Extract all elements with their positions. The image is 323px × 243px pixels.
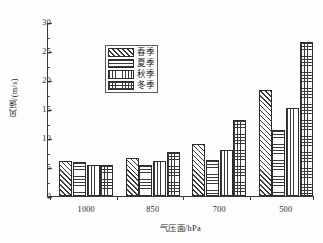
- bar-冬季-700: [233, 120, 246, 196]
- bar-chart-figure: 风速/(m/s) 051015202530 1000850700500 气压面/…: [0, 0, 323, 243]
- legend-item-spring: 春季: [108, 47, 155, 58]
- legend-label-summer: 夏季: [137, 59, 155, 68]
- y-minor-tick-mark: [48, 96, 50, 97]
- y-tick-mark: [48, 110, 52, 111]
- bar-冬季-1000: [100, 165, 113, 196]
- x-tick-label: 700: [213, 205, 226, 214]
- legend-swatch-summer-icon: [108, 59, 134, 68]
- bar-夏季-1000: [73, 162, 86, 196]
- y-tick-mark: [48, 168, 52, 169]
- legend-label-spring: 春季: [137, 48, 155, 57]
- y-minor-tick-mark: [48, 154, 50, 155]
- bar-秋季-850: [153, 161, 166, 196]
- bar-春季-500: [259, 90, 272, 196]
- bar-夏季-700: [206, 160, 219, 196]
- bar-春季-850: [126, 158, 139, 196]
- bar-春季-1000: [59, 161, 72, 196]
- legend-swatch-autumn-icon: [108, 70, 134, 79]
- y-tick-mark: [48, 81, 52, 82]
- x-tick-mark: [183, 196, 184, 200]
- bar-夏季-850: [139, 165, 152, 196]
- legend-item-winter: 冬季: [108, 80, 155, 91]
- bar-夏季-500: [272, 130, 285, 196]
- x-tick-label: 1000: [78, 205, 95, 214]
- x-tick-mark: [50, 196, 51, 200]
- legend-item-summer: 夏季: [108, 58, 155, 69]
- y-minor-tick-mark: [48, 183, 50, 184]
- x-tick-mark: [313, 196, 314, 200]
- legend-label-winter: 冬季: [137, 81, 155, 90]
- legend-label-autumn: 秋季: [137, 70, 155, 79]
- chart-legend: 春季 夏季 秋季 冬季: [105, 45, 158, 93]
- y-minor-tick-mark: [48, 125, 50, 126]
- y-axis-title: 风速/(m/s): [9, 78, 21, 117]
- legend-swatch-spring-icon: [108, 48, 134, 57]
- bar-春季-700: [192, 144, 205, 196]
- bar-冬季-500: [300, 42, 313, 196]
- y-tick-mark: [48, 23, 52, 24]
- y-tick-mark: [48, 52, 52, 53]
- legend-item-autumn: 秋季: [108, 69, 155, 80]
- x-tick-label: 500: [279, 205, 292, 214]
- x-tick-mark: [250, 196, 251, 200]
- bar-冬季-850: [167, 152, 180, 196]
- x-tick-mark: [117, 196, 118, 200]
- bar-秋季-1000: [87, 165, 100, 196]
- bar-秋季-500: [286, 108, 299, 196]
- legend-swatch-winter-icon: [108, 81, 134, 90]
- y-minor-tick-mark: [48, 38, 50, 39]
- bar-秋季-700: [220, 150, 233, 196]
- y-minor-tick-mark: [48, 67, 50, 68]
- plot-area: 051015202530 1000850700500 气压面/hPa 春季 夏季…: [47, 23, 313, 197]
- x-tick-label: 850: [146, 205, 159, 214]
- y-tick-mark: [48, 139, 52, 140]
- x-axis-title: 气压面/hPa: [48, 221, 313, 233]
